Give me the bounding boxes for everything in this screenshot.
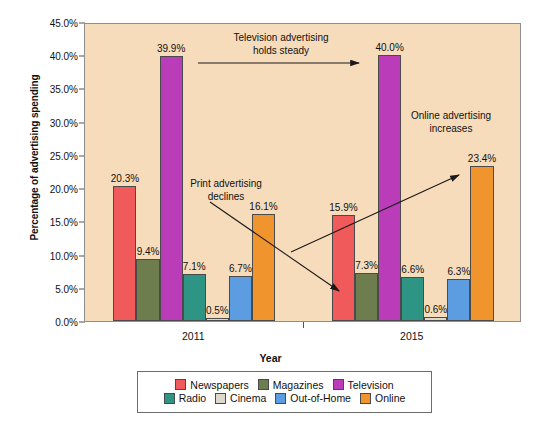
bar-value-label: 9.4% (137, 246, 160, 257)
legend-label: Magazines (273, 379, 324, 391)
legend-swatch-icon (360, 393, 371, 404)
y-tick-label: 40.0% (22, 51, 78, 62)
legend-swatch-icon (333, 379, 344, 390)
bar-value-label: 6.6% (401, 264, 424, 275)
y-tick-label: 0.0% (22, 317, 78, 328)
legend-label: Radio (179, 392, 206, 404)
chart-legend: NewspapersMagazinesTelevisionRadioCinema… (137, 371, 432, 413)
legend-item-cinema[interactable]: Cinema (215, 392, 266, 404)
legend-label: Cinema (230, 392, 266, 404)
bar[interactable] (447, 279, 470, 321)
bar[interactable] (183, 274, 206, 321)
bar-value-label: 20.3% (111, 173, 139, 184)
bar[interactable] (229, 276, 252, 321)
annotation-television-steady: Television advertising holds steady (233, 31, 328, 57)
bar-group: 20.3%9.4%39.9%7.1%0.5%6.7%16.1% (113, 24, 275, 321)
y-tick-label: 5.0% (22, 283, 78, 294)
legend-label: Online (375, 392, 405, 404)
legend-item-radio[interactable]: Radio (164, 392, 206, 404)
legend-label: Television (348, 379, 394, 391)
plot-area: 20.3%9.4%39.9%7.1%0.5%6.7%16.1%15.9%7.3%… (84, 23, 521, 322)
bar-value-label: 7.1% (183, 261, 206, 272)
legend-row: NewspapersMagazinesTelevision (144, 379, 425, 391)
bar-value-label: 23.4% (468, 153, 496, 164)
legend-row: RadioCinemaOut-of-HomeOnline (144, 392, 425, 404)
bar-value-label: 0.5% (206, 305, 229, 316)
legend-label: Newspapers (190, 379, 248, 391)
bar[interactable] (206, 318, 229, 321)
y-tick-label: 15.0% (22, 217, 78, 228)
y-tick-label: 35.0% (22, 84, 78, 95)
legend-label: Out-of-Home (290, 392, 351, 404)
bar-value-label: 6.3% (448, 266, 471, 277)
x-tick-label: 2015 (400, 330, 423, 342)
bar[interactable] (252, 214, 275, 321)
bar-container: 20.3%9.4%39.9%7.1%0.5%6.7%16.1%15.9%7.3%… (85, 24, 520, 321)
x-tick-mark (303, 322, 304, 328)
bar-value-label: 0.6% (424, 304, 447, 315)
chart-figure: Percentage of advertising spending 0.0%5… (0, 0, 541, 435)
x-axis-title: Year (0, 352, 541, 364)
y-tick-label: 10.0% (22, 250, 78, 261)
bar[interactable] (332, 215, 355, 321)
bar[interactable] (355, 273, 378, 322)
bar-value-label: 6.7% (229, 263, 252, 274)
bar[interactable] (160, 56, 183, 321)
bar-group: 15.9%7.3%40.0%6.6%0.6%6.3%23.4% (332, 24, 494, 321)
bar[interactable] (136, 259, 159, 321)
y-tick-label: 20.0% (22, 184, 78, 195)
x-tick-label: 2011 (182, 330, 205, 342)
legend-swatch-icon (275, 393, 286, 404)
legend-swatch-icon (258, 379, 269, 390)
y-tick-label: 30.0% (22, 117, 78, 128)
legend-item-television[interactable]: Television (333, 379, 394, 391)
bar-value-label: 40.0% (375, 42, 403, 53)
legend-item-newspapers[interactable]: Newspapers (175, 379, 248, 391)
annotation-print-declines: Print advertising declines (190, 177, 262, 203)
bar[interactable] (401, 277, 424, 321)
y-tick-label: 45.0% (22, 18, 78, 29)
legend-swatch-icon (175, 379, 186, 390)
y-tick-label: 25.0% (22, 150, 78, 161)
bar[interactable] (470, 166, 493, 321)
bar[interactable] (424, 317, 447, 321)
legend-swatch-icon (215, 393, 226, 404)
annotation-online-increases: Online advertising increases (411, 109, 491, 135)
bar-value-label: 7.3% (355, 260, 378, 271)
bar[interactable] (378, 55, 401, 321)
bar-value-label: 39.9% (157, 43, 185, 54)
legend-swatch-icon (164, 393, 175, 404)
bar-value-label: 15.9% (329, 202, 357, 213)
legend-item-out-of-home[interactable]: Out-of-Home (275, 392, 351, 404)
legend-item-online[interactable]: Online (360, 392, 405, 404)
bar[interactable] (113, 186, 136, 321)
legend-item-magazines[interactable]: Magazines (258, 379, 324, 391)
